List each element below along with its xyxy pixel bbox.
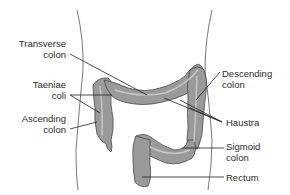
label-descending-colon: Descending colon (222, 68, 272, 90)
leader-ascending-colon (70, 122, 97, 129)
label-transverse-colon: Transverse colon (4, 38, 66, 60)
rectum-shape (133, 136, 151, 187)
label-rectum: Rectum (226, 172, 259, 183)
body-outline-right (205, 10, 212, 190)
body-outline-left (76, 10, 83, 190)
colon (93, 64, 207, 187)
label-ascending-colon: Ascending colon (4, 113, 66, 135)
label-sigmoid-colon: Sigmoid colon (226, 141, 260, 163)
label-haustra: Haustra (226, 117, 259, 128)
label-taeniae-coli: Taeniae coli (4, 79, 66, 101)
